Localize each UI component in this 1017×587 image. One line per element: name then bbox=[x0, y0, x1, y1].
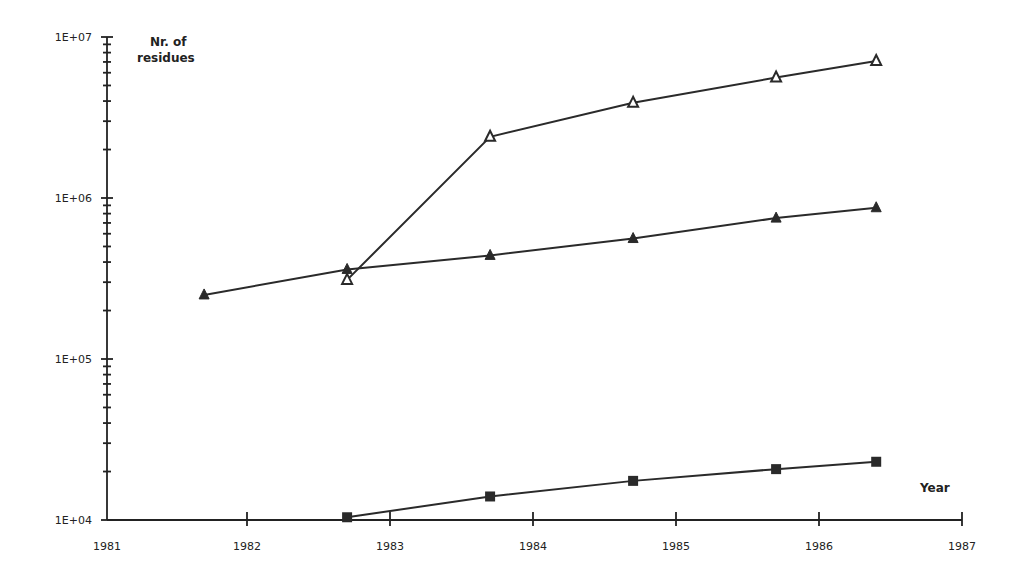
axes bbox=[101, 37, 962, 526]
y-tick-label: 1E+07 bbox=[55, 31, 92, 44]
square-marker bbox=[342, 512, 352, 522]
y-tick-labels: 1E+041E+051E+061E+07 bbox=[55, 31, 92, 527]
open-triangle-marker bbox=[871, 55, 881, 65]
y-axis-title-line2: residues bbox=[137, 51, 195, 65]
series-line bbox=[347, 61, 876, 280]
x-tick-label: 1985 bbox=[662, 540, 690, 553]
open-triangle-marker bbox=[771, 72, 781, 82]
square-marker bbox=[485, 491, 495, 501]
filled-triangle-marker bbox=[871, 202, 881, 212]
square-marker bbox=[628, 476, 638, 486]
x-tick-label: 1984 bbox=[519, 540, 547, 553]
y-tick-label: 1E+05 bbox=[55, 353, 92, 366]
square-marker bbox=[871, 457, 881, 467]
x-tick-label: 1983 bbox=[376, 540, 404, 553]
x-tick-label: 1987 bbox=[948, 540, 976, 553]
series-line bbox=[347, 462, 876, 517]
line-chart: 1E+041E+051E+061E+07 1981198219831984198… bbox=[0, 0, 1017, 587]
series-group bbox=[199, 55, 881, 522]
x-tick-label: 1981 bbox=[93, 540, 121, 553]
square-marker bbox=[771, 464, 781, 474]
y-tick-label: 1E+06 bbox=[55, 192, 92, 205]
x-tick-label: 1986 bbox=[805, 540, 833, 553]
y-axis-title-line1: Nr. of bbox=[150, 35, 187, 49]
open-triangle-marker bbox=[485, 131, 495, 141]
x-tick-label: 1982 bbox=[233, 540, 261, 553]
x-axis-title: Year bbox=[919, 481, 950, 495]
open-triangle-marker bbox=[628, 97, 638, 107]
x-tick-labels: 1981198219831984198519861987 bbox=[93, 540, 976, 553]
y-tick-label: 1E+04 bbox=[55, 514, 92, 527]
